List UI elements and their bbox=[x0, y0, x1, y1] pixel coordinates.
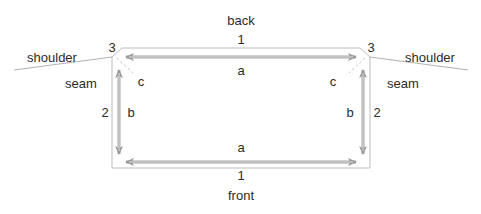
label-top-edge-a: a bbox=[237, 64, 244, 78]
label-corner-left-3: 3 bbox=[108, 41, 115, 55]
label-seam-left: seam bbox=[65, 77, 97, 91]
label-left-number-2: 2 bbox=[101, 106, 108, 120]
label-top-number: 1 bbox=[237, 33, 244, 47]
label-corner-right-3: 3 bbox=[367, 41, 374, 55]
label-seam-right: seam bbox=[387, 77, 419, 91]
label-chamfer-left-c: c bbox=[138, 75, 145, 89]
label-chamfer-right-c: c bbox=[330, 75, 337, 89]
label-left-edge-b: b bbox=[127, 106, 134, 120]
seam-diagram: back 1 a a 1 front shoulder shoulder sea… bbox=[0, 0, 481, 214]
label-bottom-edge-a: a bbox=[237, 141, 244, 155]
label-front: front bbox=[228, 189, 254, 203]
label-shoulder-right: shoulder bbox=[405, 51, 455, 65]
label-right-number-2: 2 bbox=[373, 106, 380, 120]
label-right-edge-b: b bbox=[346, 106, 353, 120]
label-shoulder-left: shoulder bbox=[27, 51, 77, 65]
label-bottom-number: 1 bbox=[237, 169, 244, 183]
label-back: back bbox=[227, 14, 254, 28]
